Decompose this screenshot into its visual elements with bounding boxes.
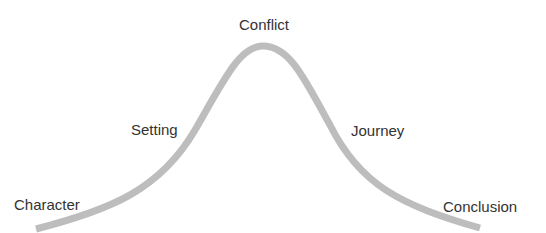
label-setting: Setting xyxy=(131,122,178,137)
story-arc-diagram: Character Setting Conflict Journey Concl… xyxy=(0,0,546,233)
label-character: Character xyxy=(14,197,80,212)
label-conclusion: Conclusion xyxy=(443,199,517,214)
story-arc-curve xyxy=(36,46,480,229)
label-conflict: Conflict xyxy=(239,17,289,32)
label-journey: Journey xyxy=(351,123,404,138)
